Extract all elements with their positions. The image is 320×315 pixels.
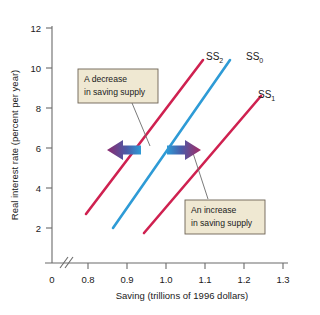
x-tick-label-1.0: 1.0: [159, 274, 172, 285]
y-tick-label-10: 10: [30, 63, 41, 74]
callout-increase-line2: in saving supply: [191, 218, 253, 228]
x-tick-label-0.9: 0.9: [120, 274, 133, 285]
y-tick-label-8: 8: [36, 103, 41, 114]
x-origin-label: 0: [49, 274, 54, 285]
callout-decrease: A decrease in saving supply: [78, 69, 158, 103]
callout-decrease-line1: A decrease: [84, 74, 127, 84]
callout-increase-line1: An increase: [191, 205, 237, 215]
y-tick-label-2: 2: [36, 223, 41, 234]
x-axis-title: Saving (trillions of 1996 dollars): [116, 290, 249, 301]
x-tick-label-1.2: 1.2: [237, 274, 250, 285]
chart-svg: 2 4 6 8 10 12 0 0.8 0.9 1.0 1.1 1.2: [0, 0, 320, 315]
x-tick-label-1.3: 1.3: [276, 274, 289, 285]
callout-decrease-line2: in saving supply: [84, 87, 146, 97]
saving-supply-chart-figure: 2 4 6 8 10 12 0 0.8 0.9 1.0 1.1 1.2: [0, 0, 320, 315]
callout-increase: An increase in saving supply: [185, 200, 265, 234]
x-tick-label-1.1: 1.1: [198, 274, 211, 285]
y-tick-label-4: 4: [36, 183, 41, 194]
y-tick-label-12: 12: [30, 23, 41, 34]
chart-background: [0, 0, 320, 315]
y-tick-label-6: 6: [36, 143, 41, 154]
y-axis-title: Real interest rate (percent per year): [9, 70, 20, 220]
x-tick-label-0.8: 0.8: [81, 274, 94, 285]
